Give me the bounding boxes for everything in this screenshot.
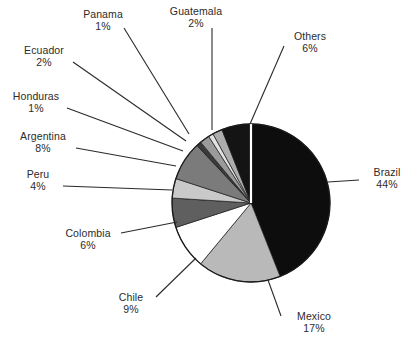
leader-line-others [250,46,284,124]
slice-label-peru-name: Peru [13,168,63,180]
slice-label-guatemala-name: Guatemala [158,5,234,17]
slice-label-mexico-pct: 17% [284,322,344,334]
slice-label-honduras-pct: 1% [3,102,69,114]
slice-label-colombia: Colombia 6% [54,227,122,251]
slice-label-argentina-name: Argentina [9,130,77,142]
slice-label-honduras-name: Honduras [3,90,69,102]
leader-line-chile [156,258,196,297]
slice-label-ecuador-pct: 2% [14,56,74,68]
slice-label-colombia-name: Colombia [54,227,122,239]
slice-label-others-name: Others [281,30,339,42]
leader-line-peru [63,186,172,190]
slice-label-brazil-pct: 44% [362,178,412,190]
leader-line-colombia [121,222,177,233]
slice-label-chile-pct: 9% [106,303,156,315]
leader-line-mexico [268,280,281,316]
leader-line-brazil [328,180,359,182]
slice-label-mexico-name: Mexico [284,310,344,322]
slice-label-others: Others 6% [281,30,339,54]
leader-line-panama [124,28,189,134]
leader-line-argentina [76,148,176,166]
slice-label-panama: Panama 1% [73,8,133,32]
pie-chart-figure: Panama 1% Guatemala 2% Others 6% Ecuador… [0,0,417,348]
slice-label-guatemala-pct: 2% [158,17,234,29]
slice-label-guatemala: Guatemala 2% [158,5,234,29]
slice-label-ecuador: Ecuador 2% [14,44,74,68]
slice-label-argentina: Argentina 8% [9,130,77,154]
slice-label-others-pct: 6% [281,42,339,54]
slice-label-brazil-name: Brazil [362,166,412,178]
slice-label-chile-name: Chile [106,291,156,303]
slice-label-brazil: Brazil 44% [362,166,412,190]
slice-label-ecuador-name: Ecuador [14,44,74,56]
slice-label-chile: Chile 9% [106,291,156,315]
slice-label-peru-pct: 4% [13,180,63,192]
slice-label-argentina-pct: 8% [9,142,77,154]
slice-label-panama-name: Panama [73,8,133,20]
slice-label-panama-pct: 1% [73,20,133,32]
leader-line-honduras [67,108,183,151]
slice-label-honduras: Honduras 1% [3,90,69,114]
slice-label-peru: Peru 4% [13,168,63,192]
slice-label-mexico: Mexico 17% [284,310,344,334]
slice-label-colombia-pct: 6% [54,239,122,251]
